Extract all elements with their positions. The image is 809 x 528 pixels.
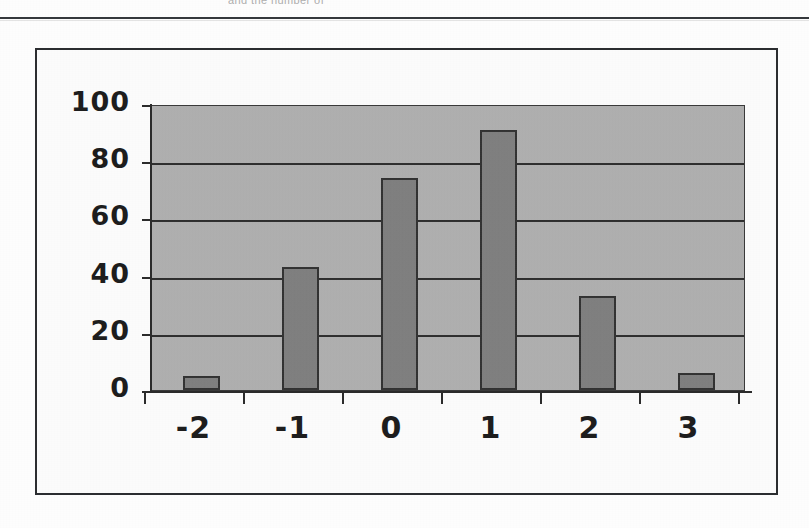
y-axis-label-60: 60 xyxy=(60,200,130,231)
x-tick-5 xyxy=(639,391,641,404)
gridline-20 xyxy=(152,335,744,337)
y-axis-label-0: 0 xyxy=(60,372,130,403)
x-tick-4 xyxy=(540,391,542,404)
gridline-80 xyxy=(152,163,744,165)
header-rule-shadow xyxy=(0,20,809,21)
top-cut-text: and the number of xyxy=(228,0,588,6)
x-axis-label-2: 2 xyxy=(555,410,625,445)
gridline-40 xyxy=(152,278,744,280)
bar-3 xyxy=(678,373,716,390)
bar-2 xyxy=(579,296,617,390)
y-axis-label-100: 100 xyxy=(60,86,130,117)
y-axis-label-80: 80 xyxy=(60,143,130,174)
bar-1 xyxy=(480,130,518,390)
y-axis-label-40: 40 xyxy=(60,258,130,289)
bar-0 xyxy=(381,178,419,390)
x-axis-label--2: -2 xyxy=(159,410,229,445)
x-axis-line xyxy=(144,391,752,393)
y-tick-40 xyxy=(142,277,151,279)
x-axis-label--1: -1 xyxy=(258,410,328,445)
bar--2 xyxy=(183,376,221,390)
plot-texture xyxy=(152,106,744,390)
x-tick-3 xyxy=(441,391,443,404)
x-tick-6 xyxy=(738,391,740,404)
gridline-60 xyxy=(152,220,744,222)
x-tick-2 xyxy=(342,391,344,404)
plot-area xyxy=(151,105,745,391)
x-tick-1 xyxy=(243,391,245,404)
y-tick-100 xyxy=(142,105,151,107)
y-axis-label-20: 20 xyxy=(60,315,130,346)
y-tick-60 xyxy=(142,219,151,221)
y-axis-line xyxy=(150,104,152,393)
x-axis-label-3: 3 xyxy=(654,410,724,445)
header-rule xyxy=(0,17,809,19)
y-tick-80 xyxy=(142,162,151,164)
bar--1 xyxy=(282,267,320,390)
x-axis-label-0: 0 xyxy=(357,410,427,445)
x-tick-0 xyxy=(144,391,146,404)
x-axis-label-1: 1 xyxy=(456,410,526,445)
y-tick-20 xyxy=(142,334,151,336)
